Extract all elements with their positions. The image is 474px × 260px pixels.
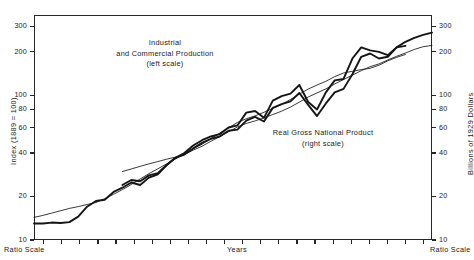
chart-figure: Index (1889 = 100) Billions of 1929 Doll… [0,0,474,260]
industrial-production-line [34,46,405,224]
real-gnp-trend [122,45,432,171]
series-canvas [0,0,474,260]
real-gnp-line [122,33,432,185]
